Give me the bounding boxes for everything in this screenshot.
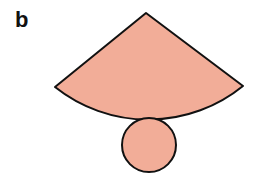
sector-shape	[55, 13, 243, 120]
base-circle	[122, 118, 176, 172]
cone-net-diagram	[0, 0, 254, 178]
